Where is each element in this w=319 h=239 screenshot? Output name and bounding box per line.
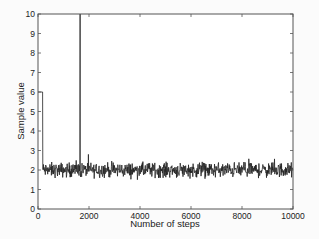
y-tick-label: 1 [30,185,35,195]
y-axis-label: Sample value [15,82,26,140]
x-tick-label: 0 [36,211,41,221]
y-tick-label: 7 [30,68,35,78]
y-tick-label: 8 [30,48,35,58]
y-tick-label: 3 [30,146,35,156]
y-tick-label: 6 [30,87,35,97]
x-axis-label: Number of steps [130,218,200,229]
y-tick-label: 0 [30,204,35,214]
y-tick-label: 9 [30,29,35,39]
trace-plot: 012345678910 0200040006000800010000 Numb… [0,0,319,239]
x-tick-label: 8000 [233,211,252,221]
y-tick-label: 2 [30,165,35,175]
y-tick-label: 10 [26,9,36,19]
x-tick-label: 2000 [80,211,99,221]
plot-area [38,14,293,209]
y-tick-label: 4 [30,126,35,136]
y-tick-label: 5 [30,107,35,117]
x-tick-label: 10000 [281,211,305,221]
